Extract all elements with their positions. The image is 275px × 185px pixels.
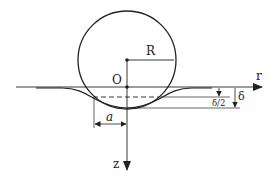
deformed-surface — [36, 88, 212, 108]
contact-diagram: R O r z a δ δ/2 — [0, 0, 275, 185]
depth-label: δ — [238, 90, 245, 103]
z-axis-label: z — [113, 157, 119, 171]
origin-label: O — [112, 73, 122, 87]
r-axis-label: r — [256, 69, 262, 83]
radius-label: R — [146, 44, 156, 58]
contact-radius-label: a — [106, 110, 113, 124]
half-depth-label: δ/2 — [212, 98, 225, 108]
origin-dot — [125, 85, 129, 89]
